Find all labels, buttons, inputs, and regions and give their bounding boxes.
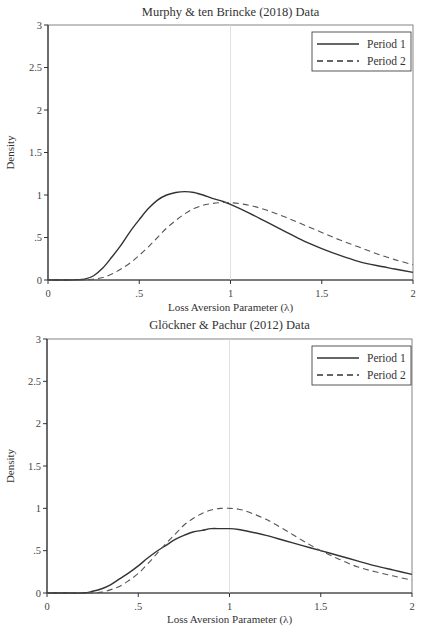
y-tick-label: 2.5 xyxy=(28,376,41,387)
y-axis-label: Density xyxy=(4,448,16,483)
chart-murphy-ten-brincke: Murphy & ten Brincke (2018) Data0.511.52… xyxy=(0,0,430,320)
x-tick-label: 0 xyxy=(45,288,50,299)
y-tick-label: .5 xyxy=(34,232,42,243)
x-tick-label: 1.5 xyxy=(314,601,327,612)
x-tick-label: 0 xyxy=(44,601,49,612)
chart-title: Glöckner & Pachur (2012) Data xyxy=(149,318,310,332)
legend-label: Period 2 xyxy=(367,55,406,67)
x-tick-label: .5 xyxy=(135,288,143,299)
legend: Period 1Period 2 xyxy=(312,32,411,71)
y-tick-label: 0 xyxy=(37,275,42,286)
chart-canvas: Murphy & ten Brincke (2018) Data0.511.52… xyxy=(0,0,430,320)
y-tick-label: 1 xyxy=(37,190,42,201)
y-axis-label: Density xyxy=(4,135,16,170)
legend-label: Period 1 xyxy=(367,352,406,364)
chart-title: Murphy & ten Brincke (2018) Data xyxy=(142,5,320,19)
chart-glockner-pachur: Glöckner & Pachur (2012) Data0.511.522.5… xyxy=(0,314,430,638)
legend-label: Period 2 xyxy=(367,369,406,381)
legend-label: Period 1 xyxy=(367,38,406,50)
y-tick-label: 1 xyxy=(36,503,41,514)
y-tick-label: 1.5 xyxy=(29,147,42,158)
y-tick-label: 2.5 xyxy=(29,62,42,73)
legend: Period 1Period 2 xyxy=(312,346,411,385)
y-tick-label: 2 xyxy=(36,418,41,429)
y-tick-label: 2 xyxy=(37,105,42,116)
y-tick-label: .5 xyxy=(33,545,41,556)
x-axis-label: Loss Aversion Parameter (λ) xyxy=(167,613,293,626)
y-tick-label: 1.5 xyxy=(28,461,41,472)
chart-canvas: Glöckner & Pachur (2012) Data0.511.522.5… xyxy=(0,314,430,638)
y-tick-label: 0 xyxy=(36,588,41,599)
x-tick-label: 2 xyxy=(410,288,415,299)
x-tick-label: 1 xyxy=(228,288,233,299)
x-tick-label: 1 xyxy=(227,601,232,612)
x-tick-label: 1.5 xyxy=(315,288,328,299)
x-axis-label: Loss Aversion Parameter (λ) xyxy=(168,301,294,314)
x-tick-label: .5 xyxy=(134,601,142,612)
y-tick-label: 3 xyxy=(37,20,42,31)
x-tick-label: 2 xyxy=(409,601,414,612)
y-tick-label: 3 xyxy=(36,334,41,345)
